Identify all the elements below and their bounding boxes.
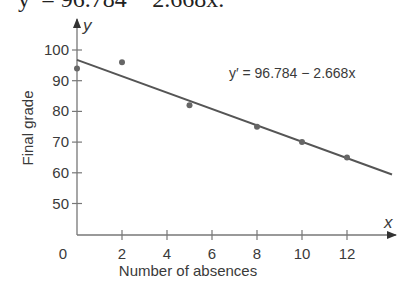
x-tick-label: 4	[163, 245, 171, 262]
y-tick-label: 50	[52, 195, 69, 212]
scatter-chart: 2468101205060708090100 y′ = 96.784 − 2.6…	[0, 0, 407, 286]
y-tick-label: 100	[44, 41, 69, 58]
x-tick-label: 2	[118, 245, 126, 262]
x-tick-label: 6	[208, 245, 216, 262]
origin-label: 0	[59, 245, 67, 262]
x-axis-variable: x	[383, 213, 393, 232]
data-point	[74, 65, 80, 71]
x-axis-title: Number of absences	[119, 262, 257, 279]
y-tick-label: 80	[52, 102, 69, 119]
data-point	[254, 124, 260, 130]
regression-equation-label: y′ = 96.784 − 2.668x	[229, 65, 355, 81]
y-axis-title: Final grade	[19, 90, 36, 165]
y-tick-label: 90	[52, 72, 69, 89]
x-tick-label: 12	[339, 245, 356, 262]
y-tick-label: 70	[52, 133, 69, 150]
y-axis-variable: y	[82, 16, 93, 35]
data-point	[187, 102, 193, 108]
x-tick-label: 8	[253, 245, 261, 262]
data-point	[299, 139, 305, 145]
x-tick-label: 10	[294, 245, 311, 262]
data-point	[344, 154, 350, 160]
axes	[77, 19, 396, 235]
data-point	[119, 59, 125, 65]
y-tick-label: 60	[52, 164, 69, 181]
